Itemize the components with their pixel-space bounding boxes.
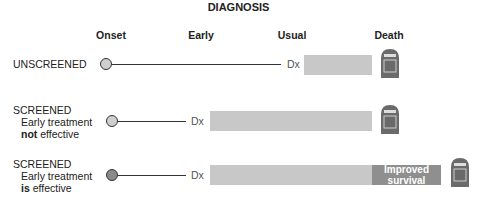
improved-survival-bar: Improved survival xyxy=(372,165,441,185)
column-early: Early xyxy=(188,29,214,41)
label-bold: is xyxy=(21,182,30,194)
label-line2: Early treatment xyxy=(13,170,92,182)
row-label-screened-effective: SCREENED Early treatment is effective xyxy=(13,158,92,194)
label-bold: not xyxy=(21,128,37,140)
label-line1: SCREENED xyxy=(13,158,71,170)
tombstone-icon xyxy=(450,157,470,192)
survival-bar xyxy=(210,111,372,131)
dx-marker: Dx xyxy=(191,169,204,181)
timeline xyxy=(112,64,281,65)
survival-bar xyxy=(210,165,372,185)
label-rest: effective xyxy=(37,128,79,140)
label-line2: Early treatment xyxy=(13,116,92,128)
timeline xyxy=(118,121,186,122)
onset-circle xyxy=(100,58,112,70)
onset-circle xyxy=(106,115,118,127)
row-label-unscreened: UNSCREENED xyxy=(13,58,87,70)
column-usual: Usual xyxy=(278,29,307,41)
survival-bar xyxy=(304,55,372,75)
label-rest: effective xyxy=(30,182,72,194)
dx-marker: Dx xyxy=(287,58,300,70)
improved-label-2: survival xyxy=(388,175,426,186)
column-death: Death xyxy=(374,29,403,41)
tombstone-icon xyxy=(380,48,400,83)
column-onset: Onset xyxy=(96,29,126,41)
dx-marker: Dx xyxy=(191,115,204,127)
tombstone-icon xyxy=(380,104,400,139)
onset-circle xyxy=(106,169,118,181)
row-label-screened-not-effective: SCREENED Early treatment not effective xyxy=(13,104,92,140)
improved-label-1: Improved xyxy=(384,164,429,175)
timeline xyxy=(118,175,186,176)
diagram-title: DIAGNOSIS xyxy=(0,1,477,13)
label-line1: SCREENED xyxy=(13,104,71,116)
